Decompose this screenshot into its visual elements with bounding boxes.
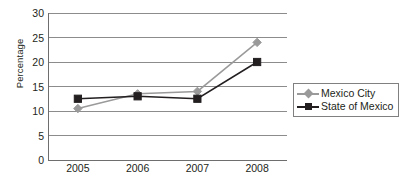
legend-marker-square-icon <box>297 101 319 112</box>
x-tick-label: 2005 <box>66 163 89 174</box>
x-tick-label: 2007 <box>186 163 209 174</box>
x-tick-label: 2006 <box>126 163 149 174</box>
data-point-square <box>134 93 141 100</box>
legend-item-mexico-city: Mexico City <box>297 87 393 100</box>
legend-marker-diamond-icon <box>297 88 319 99</box>
x-axis-tick-labels: 2005200620072008 <box>48 163 298 183</box>
data-point-square <box>74 95 81 102</box>
x-tick-label: 2008 <box>245 163 268 174</box>
legend-label-mexico-city: Mexico City <box>319 88 375 99</box>
chart-legend: Mexico City State of Mexico <box>293 83 399 117</box>
data-point-square <box>254 58 261 65</box>
series-line-1 <box>78 42 257 108</box>
data-point-square <box>194 95 201 102</box>
legend-label-state-of-mexico: State of Mexico <box>319 101 393 112</box>
line-chart: Percentage 051015202530 2005200620072008… <box>0 0 416 190</box>
legend-item-state-of-mexico: State of Mexico <box>297 100 393 113</box>
